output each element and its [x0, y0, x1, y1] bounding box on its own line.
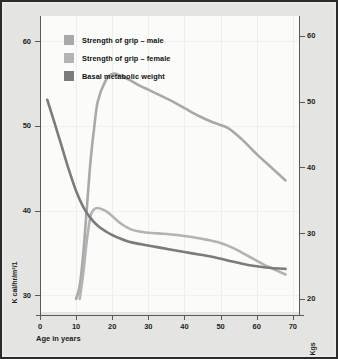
y-axis-left-line	[40, 16, 41, 316]
y-axis-right-tick	[300, 36, 305, 37]
y-axis-left-tick	[35, 211, 40, 212]
x-axis-tick	[76, 315, 77, 320]
x-axis-tick-label: 30	[138, 322, 158, 331]
chart-legend: Strength of grip – maleStrength of grip …	[64, 33, 170, 87]
y-axis-left-tick	[35, 295, 40, 296]
x-axis-tick	[257, 315, 258, 320]
x-axis-tick	[293, 315, 294, 320]
y-axis-right-tick	[300, 233, 305, 234]
legend-item-0: Strength of grip – male	[64, 33, 170, 47]
legend-item-2: Basal metabolic weight	[64, 69, 170, 83]
x-axis-tick-label: 0	[30, 322, 50, 331]
y-axis-right-tick	[300, 167, 305, 168]
x-axis-tick-label: 60	[247, 322, 267, 331]
x-axis-tick-label: 70	[283, 322, 303, 331]
x-axis-tick-label: 20	[102, 322, 122, 331]
y-axis-right-tick	[300, 299, 305, 300]
series-line-1	[80, 208, 286, 299]
y-axis-right-tick-label: 50	[307, 97, 327, 106]
x-axis-tick	[112, 315, 113, 320]
x-axis-tick-label: 40	[174, 322, 194, 331]
y-axis-right-tick-label: 40	[307, 163, 327, 172]
y-axis-right-tick	[300, 102, 305, 103]
legend-swatch-icon	[64, 71, 74, 81]
y-axis-left-tick	[35, 126, 40, 127]
y-axis-left-title: K cal/hr/m²/1	[11, 224, 18, 304]
x-axis-tick	[184, 315, 185, 320]
y-axis-right-line	[299, 16, 300, 316]
chart-figure: 304050602030405060010203040506070 Age in…	[0, 0, 338, 359]
y-axis-right-tick-label: 60	[307, 31, 327, 40]
legend-swatch-icon	[64, 53, 74, 63]
y-axis-left-tick-label: 40	[11, 206, 31, 215]
legend-label: Basal metabolic weight	[82, 72, 165, 81]
legend-item-1: Strength of grip – female	[64, 51, 170, 65]
y-axis-right-title: Kgs	[309, 316, 316, 356]
legend-label: Strength of grip – male	[82, 36, 164, 45]
x-axis-tick-label: 10	[66, 322, 86, 331]
y-axis-left-tick	[35, 41, 40, 42]
y-axis-left-tick-label: 50	[11, 121, 31, 130]
legend-label: Strength of grip – female	[82, 54, 170, 63]
y-axis-right-tick-label: 30	[307, 229, 327, 238]
x-axis-tick	[221, 315, 222, 320]
y-axis-left-tick-label: 60	[11, 37, 31, 46]
x-axis-tick	[40, 315, 41, 320]
legend-swatch-icon	[64, 35, 74, 45]
x-axis-tick-label: 50	[211, 322, 231, 331]
y-axis-right-tick-label: 20	[307, 294, 327, 303]
x-axis-title: Age in years	[36, 334, 81, 343]
x-axis-tick	[148, 315, 149, 320]
